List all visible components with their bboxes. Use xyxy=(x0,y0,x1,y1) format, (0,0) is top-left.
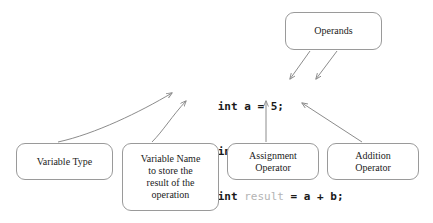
label-box-operands: Operands xyxy=(285,12,382,50)
variable-name-label: Variable Name to store the result of the… xyxy=(123,153,218,201)
assignment-expression: = a + b; xyxy=(284,190,344,203)
variable-type-label: Variable Type xyxy=(17,156,112,168)
diagram-canvas: int a = 5; int b = 10; int result = a + … xyxy=(0,0,433,223)
label-box-variable-name: Variable Name to store the result of the… xyxy=(122,143,219,211)
int-keyword: int xyxy=(218,100,238,113)
result-identifier: result xyxy=(244,190,284,203)
addition-operator-label: Addition Operator xyxy=(328,150,418,174)
declaration-a: a = 5; xyxy=(238,100,284,113)
int-keyword: int xyxy=(218,190,238,203)
code-line-2: int b = 10; xyxy=(178,129,344,144)
label-box-assignment-operator: Assignment Operator xyxy=(227,143,319,180)
connector-variable-type-to-int xyxy=(58,93,172,142)
assignment-operator-label: Assignment Operator xyxy=(228,150,318,174)
code-line-1: int a = 5; xyxy=(178,84,344,99)
label-box-addition-operator: Addition Operator xyxy=(327,143,419,180)
label-box-variable-type: Variable Type xyxy=(16,143,113,180)
operands-label: Operands xyxy=(286,25,381,37)
